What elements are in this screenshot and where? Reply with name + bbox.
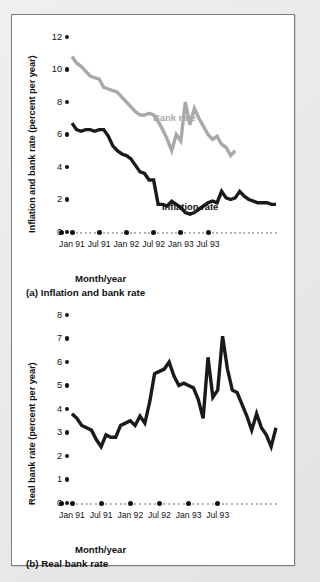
- x-axis-minor-tick: [162, 232, 164, 234]
- chart-a-y-tick-label: 12: [36, 32, 62, 42]
- x-axis-minor-tick: [94, 232, 96, 234]
- chart-b-y-tick-label: 5: [36, 380, 62, 390]
- x-axis-minor-tick: [251, 503, 253, 505]
- x-axis-minor-tick: [154, 503, 156, 505]
- x-axis-minor-tick: [85, 232, 87, 234]
- x-axis-minor-tick: [212, 232, 214, 234]
- chart-a-series-label-inflation: Inflation rate: [162, 201, 218, 212]
- chart-b-y-tick-dot: [65, 501, 69, 505]
- chart-b-y-tick-dot: [65, 430, 69, 434]
- chart-a-y-tick-dot: [65, 230, 69, 234]
- x-axis-minor-tick: [257, 232, 259, 234]
- x-axis-minor-tick: [139, 232, 141, 234]
- chart-a-y-tick-label: 6: [36, 129, 62, 139]
- x-axis-major-tick: [206, 230, 211, 235]
- chart-b-y-tick-dot: [65, 383, 69, 387]
- x-tick-label: Jul 93: [196, 510, 240, 520]
- x-axis-minor-tick: [275, 232, 277, 234]
- x-axis-minor-tick: [234, 232, 236, 234]
- chart-a-caption: (a) Inflation and bank rate: [26, 287, 145, 298]
- x-axis-minor-tick: [184, 232, 186, 234]
- chart-a-y-tick-dot: [65, 35, 69, 39]
- x-axis-minor-tick: [260, 503, 262, 505]
- chart-b-block: Real bank rate (percent per year) 012345…: [12, 301, 296, 567]
- chart-b-y-tick-label: 3: [36, 427, 62, 437]
- x-axis-major-tick: [70, 230, 75, 235]
- chart-b-caption: (b) Real bank rate: [26, 558, 108, 569]
- x-axis-minor-tick: [134, 503, 136, 505]
- chart-b-y-tick-label: 4: [36, 404, 62, 414]
- chart-b-y-tick-label: 1: [36, 474, 62, 484]
- chart-a-y-tick-dot: [65, 132, 69, 136]
- x-axis-minor-tick: [107, 232, 109, 234]
- chart-b-y-tick-dot: [65, 407, 69, 411]
- x-axis-minor-tick: [198, 232, 200, 234]
- x-axis-minor-tick: [166, 232, 168, 234]
- x-axis-minor-tick: [241, 503, 243, 505]
- x-axis-minor-tick: [243, 232, 245, 234]
- figure-page: Inflation and bank rate (percent per yea…: [0, 0, 315, 582]
- chart-b-y-tick-dot: [65, 477, 69, 481]
- x-axis-major-tick: [99, 501, 104, 506]
- chart-b-y-tick-label: 7: [36, 333, 62, 343]
- x-axis-minor-tick: [130, 232, 132, 234]
- x-axis-minor-tick: [110, 503, 112, 505]
- x-axis-minor-tick: [90, 503, 92, 505]
- x-axis-minor-tick: [236, 503, 238, 505]
- chart-a-y-tick-dot: [65, 100, 69, 104]
- x-axis-minor-tick: [157, 232, 159, 234]
- x-axis-minor-tick: [76, 503, 78, 505]
- chart-a-series-0: [72, 57, 235, 156]
- chart-b-y-tick-dot: [65, 454, 69, 458]
- x-axis-minor-tick: [221, 232, 223, 234]
- chart-a-y-tick-dot: [65, 67, 69, 71]
- chart-b-y-tick-label: 2: [36, 451, 62, 461]
- x-axis-minor-tick: [270, 232, 272, 234]
- chart-a-x-axis: [72, 230, 276, 235]
- x-axis-minor-tick: [246, 503, 248, 505]
- x-axis-major-tick: [157, 501, 162, 506]
- x-axis-minor-tick: [144, 232, 146, 234]
- chart-a-y-tick-label: 10: [36, 64, 62, 74]
- x-axis-minor-tick: [265, 503, 267, 505]
- x-axis-minor-tick: [222, 503, 224, 505]
- x-axis-origin-dot: [59, 501, 64, 506]
- x-axis-minor-tick: [193, 232, 195, 234]
- x-axis-minor-tick: [116, 232, 118, 234]
- x-axis-minor-tick: [189, 232, 191, 234]
- x-axis-minor-tick: [103, 232, 105, 234]
- chart-b-series-0: [72, 336, 276, 446]
- x-axis-minor-tick: [183, 503, 185, 505]
- chart-a-y-tick-dot: [65, 165, 69, 169]
- x-axis-minor-tick: [207, 503, 209, 505]
- x-axis-minor-tick: [230, 232, 232, 234]
- x-axis-minor-tick: [148, 232, 150, 234]
- x-axis-minor-tick: [225, 232, 227, 234]
- chart-b-x-axis: [72, 501, 276, 506]
- x-axis-minor-tick: [149, 503, 151, 505]
- x-axis-minor-tick: [256, 503, 258, 505]
- chart-b-y-tick-dot: [65, 360, 69, 364]
- x-axis-major-tick: [70, 501, 75, 506]
- x-axis-minor-tick: [81, 503, 83, 505]
- x-axis-major-tick: [178, 230, 183, 235]
- x-axis-minor-tick: [120, 503, 122, 505]
- x-axis-minor-tick: [105, 503, 107, 505]
- x-axis-major-tick: [186, 501, 191, 506]
- chart-a-x-axis-title: Month/year: [75, 273, 126, 284]
- x-axis-minor-tick: [163, 503, 165, 505]
- chart-b-x-axis-title: Month/year: [75, 544, 126, 555]
- x-axis-minor-tick: [202, 503, 204, 505]
- chart-b-y-tick-dot: [65, 336, 69, 340]
- chart-a-y-tick-label: 4: [36, 162, 62, 172]
- chart-a-y-tick-label: 8: [36, 97, 62, 107]
- x-axis-minor-tick: [192, 503, 194, 505]
- chart-a-block: Inflation and bank rate (percent per yea…: [12, 15, 296, 296]
- x-axis-minor-tick: [80, 232, 82, 234]
- x-axis-minor-tick: [226, 503, 228, 505]
- figure-frame: Inflation and bank rate (percent per yea…: [11, 14, 295, 566]
- x-axis-minor-tick: [178, 503, 180, 505]
- x-axis-minor-tick: [89, 232, 91, 234]
- x-axis-minor-tick: [239, 232, 241, 234]
- chart-b-y-tick-label: 8: [36, 310, 62, 320]
